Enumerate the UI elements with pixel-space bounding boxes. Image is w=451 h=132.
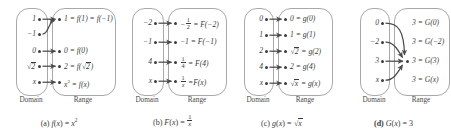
arrows-a (0, 0, 118, 110)
arrows-c (228, 0, 336, 110)
panel-c: 0 1 2 4 x 0 = g(0) 1 = g(1) √2 = g(2) 2 … (228, 0, 336, 132)
caption-a: (a) f(x) = x2 (0, 117, 118, 128)
range-axis-label-c: Range (282, 96, 328, 104)
caption-c: (c) g(x) = √x (228, 118, 336, 128)
domain-axis-label-d: Domain (354, 96, 394, 104)
caption-a-prefix: (a) (41, 119, 50, 128)
range-axis-label-b: Range (173, 96, 221, 104)
domain-axis-label-b: Domain (127, 96, 167, 104)
caption-d-prefix: (d) (374, 119, 384, 128)
caption-b: (b) F(x) = 1x (118, 114, 228, 128)
caption-b-prefix: (b) (153, 117, 162, 126)
domain-axis-label-a: Domain (11, 96, 51, 104)
caption-d: (d) G(x) = 3 (336, 119, 451, 128)
function-mapping-figure: 1 −1 0 √2 x 1 = f(1) = f(−1) 0 = f(0) 2 … (0, 0, 451, 132)
arrows-b (118, 0, 228, 110)
domain-axis-label-c: Domain (238, 96, 278, 104)
range-axis-label-d: Range (398, 96, 444, 104)
caption-c-prefix: (c) (261, 119, 270, 128)
range-axis-label-a: Range (58, 96, 108, 104)
panel-b: −2 −1 4 x −12 = F(−2) −1 = F(−1) 14 = F(… (118, 0, 228, 132)
arrows-d (336, 0, 451, 110)
panel-d: 0 −2 3 x 3 = G(0) 3 = G(−2) 3 = G(3) 3 =… (336, 0, 451, 132)
panel-a: 1 −1 0 √2 x 1 = f(1) = f(−1) 0 = f(0) 2 … (0, 0, 118, 132)
